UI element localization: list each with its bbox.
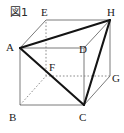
edge-B-F	[20, 76, 46, 105]
vertex-label-B: B	[9, 112, 16, 123]
vertex-label-G: G	[112, 73, 120, 84]
vertex-label-A: A	[6, 42, 14, 53]
vertex-label-C: C	[79, 112, 86, 123]
vertex-label-D: D	[79, 44, 87, 55]
vertex-label-H: H	[107, 7, 115, 18]
vertex-label-F: F	[49, 62, 55, 73]
cube-diagram-svg	[0, 0, 124, 133]
figure-container: 図1 A B C D E F G H	[0, 0, 124, 133]
edge-H-C-bold	[84, 20, 110, 105]
figure-caption: 図1	[10, 6, 28, 19]
vertex-label-E: E	[41, 7, 48, 18]
